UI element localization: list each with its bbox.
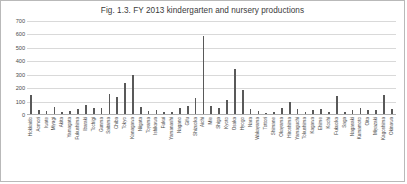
x-label-slot: Nagasaki: [349, 117, 357, 179]
bar: [226, 100, 228, 115]
bar-slot: [270, 21, 278, 115]
x-axis-tick-label: Kagoshima: [382, 117, 387, 140]
x-label-slot: Nagano: [176, 117, 184, 179]
bar-slot: [247, 21, 255, 115]
x-label-slot: Chiba: [113, 117, 121, 179]
x-axis-tick-label: Toyama: [146, 117, 151, 133]
x-axis-tick-label: Niigata: [138, 117, 143, 131]
x-label-slot: Hyogo: [239, 117, 247, 179]
bar-slot: [223, 21, 231, 115]
x-axis-tick-label: Yamaguchi: [295, 117, 300, 140]
bar-slot: [380, 21, 388, 115]
bar-slot: [35, 21, 43, 115]
x-axis-line: [27, 114, 396, 115]
bar-slot: [98, 21, 106, 115]
x-label-slot: Akita: [58, 117, 66, 179]
x-label-slot: Shiga: [215, 117, 223, 179]
bar-slot: [207, 21, 215, 115]
x-axis-tick-label: Shimane: [272, 117, 277, 135]
x-axis-tick-label: Chiba: [115, 117, 120, 129]
x-label-slot: Fukushima: [74, 117, 82, 179]
bar: [132, 75, 134, 115]
x-label-slot: Yamanashi: [168, 117, 176, 179]
x-axis-tick-label: Shiga: [217, 117, 222, 129]
y-axis-tick-label: 400: [16, 58, 25, 64]
bar: [383, 95, 385, 115]
x-label-slot: Yamaguchi: [294, 117, 302, 179]
bar-slot: [302, 21, 310, 115]
bar: [203, 36, 205, 115]
bar-slot: [200, 21, 208, 115]
bar-slot: [129, 21, 137, 115]
x-label-slot: Toyama: [145, 117, 153, 179]
x-axis-tick-label: Tottori: [264, 117, 269, 130]
bar-slot: [254, 21, 262, 115]
y-axis-tick-label: 100: [16, 99, 25, 105]
bar-slot: [317, 21, 325, 115]
bar: [124, 83, 126, 115]
bar-slot: [113, 21, 121, 115]
bar-slot: [364, 21, 372, 115]
x-axis-tick-label: Kyoto: [225, 117, 230, 129]
x-axis-tick-label: Wakayama: [256, 117, 261, 140]
x-label-slot: Wakayama: [254, 117, 262, 179]
x-label-slot: Mie: [207, 117, 215, 179]
bar-slot: [325, 21, 333, 115]
x-axis-tick-label: Aomori: [36, 117, 41, 132]
x-axis-tick-label: Gunma: [99, 117, 104, 132]
bar: [336, 96, 338, 115]
x-axis-tick-label: Hokkaido: [29, 117, 34, 136]
x-axis-tick-label: Tokyo: [123, 117, 128, 129]
x-axis-tick-label: Kanagawa: [131, 117, 136, 139]
bar-slot: [137, 21, 145, 115]
bar-slot: [184, 21, 192, 115]
x-label-slot: Aomori: [35, 117, 43, 179]
x-axis-tick-label: Okinawa: [389, 117, 394, 135]
x-axis-tick-label: Okayama: [280, 117, 285, 137]
bar-slot: [74, 21, 82, 115]
x-axis-tick-label: Fukui: [162, 117, 167, 128]
x-label-slot: Shizuoka: [192, 117, 200, 179]
x-label-slot: Kyoto: [223, 117, 231, 179]
x-axis-tick-label: Akita: [60, 117, 65, 127]
x-label-slot: Kochi: [325, 117, 333, 179]
x-label-slot: Fukui: [160, 117, 168, 179]
bar-series: [27, 21, 396, 115]
bar: [195, 98, 197, 115]
x-axis-tick-label: Kagawa: [311, 117, 316, 134]
bar-slot: [372, 21, 380, 115]
bar: [116, 97, 118, 115]
x-axis-tick-label: Kochi: [327, 117, 332, 129]
x-label-slot: Kanagawa: [129, 117, 137, 179]
x-axis-tick-label: Mie: [209, 117, 214, 124]
x-label-slot: Nara: [247, 117, 255, 179]
x-label-slot: Aichi: [200, 117, 208, 179]
bar: [109, 94, 111, 115]
x-axis-tick-label: Saga: [342, 117, 347, 128]
x-axis-tick-label: Yamagata: [68, 117, 73, 138]
y-axis-tick-label: 0: [22, 112, 25, 118]
x-axis-tick-label: Shizuoka: [193, 117, 198, 136]
x-label-slot: Kumamoto: [356, 117, 364, 179]
x-label-slot: Tokushima: [302, 117, 310, 179]
bar-slot: [215, 21, 223, 115]
bar-slot: [239, 21, 247, 115]
plot-area: [27, 21, 396, 115]
bar-slot: [168, 21, 176, 115]
x-axis-tick-label: Fukushima: [76, 117, 81, 139]
x-label-slot: Osaka: [231, 117, 239, 179]
x-label-slot: Iwate: [43, 117, 51, 179]
bar-slot: [309, 21, 317, 115]
bar-slot: [27, 21, 35, 115]
bar-slot: [153, 21, 161, 115]
bar-slot: [349, 21, 357, 115]
x-label-slot: Miyazaki: [372, 117, 380, 179]
x-label-slot: Tottori: [262, 117, 270, 179]
bar: [30, 95, 32, 115]
bar-slot: [51, 21, 59, 115]
bar-slot: [286, 21, 294, 115]
y-axis-tick-label: 700: [16, 18, 25, 24]
bar-slot: [388, 21, 396, 115]
x-axis-tick-label: Ehime: [319, 117, 324, 130]
x-axis-tick-label: Yamanashi: [170, 117, 175, 140]
